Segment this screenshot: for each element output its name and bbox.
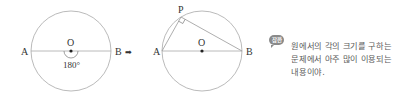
tip-line-3: 내용이야. xyxy=(291,66,415,79)
label-angle-180: 180° xyxy=(63,60,81,70)
tip-line-1: 원에서의 각의 크기를 구하는 xyxy=(291,40,415,53)
tip-line-2: 문제에서 아주 많이 이용되는 xyxy=(291,53,415,66)
arrow-icon: ➡ xyxy=(125,48,132,57)
label-b-2: B xyxy=(246,46,253,57)
center-dot-2 xyxy=(200,49,203,52)
label-a-2: A xyxy=(153,46,161,57)
center-dot-1 xyxy=(69,49,72,52)
label-b-1: B xyxy=(115,46,122,57)
label-a-1: A xyxy=(21,46,29,57)
tip-note: 원에서의 각의 크기를 구하는 문제에서 아주 많이 이용되는 내용이야. xyxy=(291,40,415,79)
label-o-2: O xyxy=(198,37,205,48)
figure-2-inscribed-right-angle: A B O P xyxy=(153,4,253,91)
tip-badge: 잠깐 xyxy=(269,35,284,45)
label-p: P xyxy=(178,4,184,15)
label-o-1: O xyxy=(67,37,74,48)
figure-1-semicircle-angle: A B O 180° xyxy=(21,11,122,91)
